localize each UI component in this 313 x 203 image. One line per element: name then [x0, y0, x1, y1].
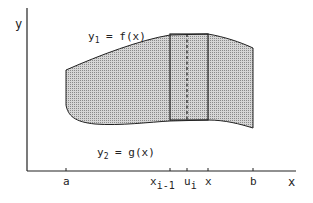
shaded-region	[66, 34, 253, 128]
lower-curve-label: y2 = g(x)	[97, 146, 155, 161]
y-axis-label: y	[15, 17, 22, 31]
area-between-curves-figure: y x y1 = f(x) y2 = g(x) a xi-1 ui x b	[0, 0, 313, 203]
tick-label-a: a	[63, 175, 70, 188]
x-axis-label: x	[288, 175, 295, 189]
upper-curve-label: y1 = f(x)	[88, 30, 146, 45]
tick-label-u: ui	[184, 175, 197, 191]
diagram-canvas: y x y1 = f(x) y2 = g(x) a xi-1 ui x b	[0, 0, 313, 203]
tick-label-x-prev: xi-1	[150, 175, 175, 191]
tick-label-x: x	[205, 175, 212, 188]
tick-label-b: b	[250, 175, 257, 188]
